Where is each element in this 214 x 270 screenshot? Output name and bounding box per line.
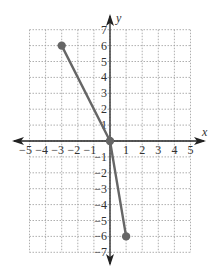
x-tick-label: 2	[139, 143, 145, 157]
y-axis-label: y	[115, 11, 122, 25]
y-tick-label: 2	[101, 102, 107, 116]
y-tick-label: −2	[94, 166, 107, 180]
y-tick-label: 4	[101, 70, 107, 84]
y-tick-label: 3	[101, 86, 107, 100]
x-tick-label: −5	[19, 143, 32, 157]
y-tick-label: −7	[94, 245, 107, 259]
y-tick-label: −1	[94, 150, 107, 164]
x-tick-label: 5	[188, 143, 194, 157]
data-point	[58, 41, 66, 49]
x-axis-label: x	[201, 125, 208, 139]
coordinate-plane: −5−4−3−2−112345−7−6−5−4−3−2−11234567 x y	[0, 0, 214, 270]
y-tick-label: 6	[101, 39, 107, 53]
y-tick-label: −5	[94, 214, 107, 228]
x-tick-label: −4	[35, 143, 48, 157]
x-tick-label: 4	[171, 143, 177, 157]
data-point	[106, 137, 114, 145]
x-tick-label: −3	[51, 143, 64, 157]
x-tick-label: −2	[67, 143, 80, 157]
y-tick-label: −3	[94, 182, 107, 196]
y-tick-label: 7	[101, 23, 107, 37]
x-tick-label: 1	[123, 143, 129, 157]
y-tick-label: 5	[101, 55, 107, 69]
y-tick-label: −6	[94, 229, 107, 243]
x-tick-label: 3	[155, 143, 161, 157]
data-point	[122, 232, 130, 240]
y-tick-label: −4	[94, 198, 107, 212]
